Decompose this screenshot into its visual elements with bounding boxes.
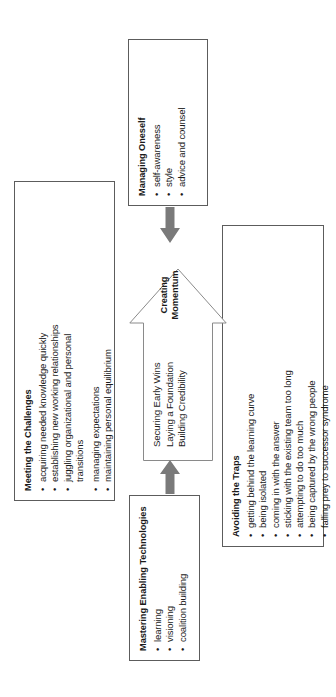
diagram-canvas: Meeting the Challenges •acquiring needed… <box>0 0 336 697</box>
bullet-marker: • <box>294 534 306 537</box>
list-item: •learning <box>152 505 164 651</box>
list-item-text: being captured by the wrong people <box>306 381 317 528</box>
list-item: •advice and counsel <box>176 49 188 196</box>
bullet-marker: • <box>245 534 257 537</box>
central-arrow-item: Building Credibility <box>176 329 189 447</box>
connector-arrow-oneself-to-center <box>160 207 180 243</box>
central-arrow-head-label: Creating Momentum <box>159 269 182 321</box>
central-arrow-item-list: Securing Early Wins Laying a Foundation … <box>151 329 189 447</box>
list-item-text: falling prey to successor syndrome <box>319 385 330 528</box>
arrow-left-icon <box>160 207 180 243</box>
bullet-marker: • <box>164 648 176 651</box>
list-item: •attempting to do too much <box>294 235 306 537</box>
list-item: •self-awareness <box>151 49 163 196</box>
list-item: •juggling organizational and personal <box>62 191 74 491</box>
panel-title-mastering-enabling-technologies: Mastering Enabling Technologies <box>137 505 149 651</box>
bullet-marker: • <box>90 488 102 491</box>
list-item-text: maintaining personal equilibrium <box>102 349 113 482</box>
list-item: •being captured by the wrong people <box>306 235 318 537</box>
central-arrow-head-label-line2: Momentum <box>170 269 181 321</box>
panel-meeting-the-challenges: Meeting the Challenges •acquiring needed… <box>14 181 115 501</box>
list-item-text: transitions <box>74 440 85 482</box>
bullet-marker: • <box>177 648 189 651</box>
list-item: •style <box>163 49 175 196</box>
panel-title-avoiding-the-traps: Avoiding the Traps <box>230 235 242 537</box>
list-item: •maintaining personal equilibrium <box>102 191 114 491</box>
panel-avoiding-the-traps: Avoiding the Traps •getting behind the l… <box>222 225 324 547</box>
list-item: •acquiring needed knowledge quickly <box>37 191 49 491</box>
panel-title-meeting-the-challenges: Meeting the Challenges <box>22 191 34 491</box>
list-item-text: acquiring needed knowledge quickly <box>37 333 48 482</box>
list-item: •managing expectations <box>90 191 102 491</box>
list-item-text: coming in with the answer <box>270 421 281 528</box>
list-item-text: establishing new working relationships <box>49 325 60 482</box>
list-item: •coalition building <box>177 505 189 651</box>
bullet-marker: • <box>319 534 331 537</box>
bullet-marker: • <box>163 193 175 196</box>
bullet-marker: • <box>270 534 282 537</box>
bullet-list-meeting-the-challenges: •acquiring needed knowledge quickly •est… <box>37 191 115 491</box>
list-item-text: managing expectations <box>90 386 101 482</box>
list-item-text: coalition building <box>177 574 188 642</box>
list-item-text: sticking with the existing team too long <box>282 370 293 528</box>
bullet-marker: • <box>151 193 163 196</box>
bullet-list-avoiding-the-traps: •getting behind the learning curve •bein… <box>245 235 331 537</box>
list-item: •establishing new working relationships <box>49 191 61 491</box>
list-item-text: style <box>163 168 174 187</box>
diagram-rotation-stage: Meeting the Challenges •acquiring needed… <box>0 0 336 697</box>
list-item: •sticking with the existing team too lon… <box>282 235 294 537</box>
panel-managing-oneself: Managing Oneself •self-awareness •style … <box>128 39 208 206</box>
central-arrow-item: Securing Early Wins <box>151 329 164 447</box>
arrow-right-icon <box>160 460 180 494</box>
list-item-text: self-awareness <box>151 125 162 187</box>
central-arrow-head-label-line1: Creating <box>159 269 170 321</box>
list-item-continuation: transitions <box>74 191 86 491</box>
bullet-marker: • <box>49 488 61 491</box>
bullet-marker: • <box>62 488 74 491</box>
list-item-text: visioning <box>164 606 175 642</box>
bullet-marker: • <box>257 534 269 537</box>
bullet-marker: • <box>102 488 114 491</box>
list-item: •getting behind the learning curve <box>245 235 257 537</box>
panel-title-managing-oneself: Managing Oneself <box>136 49 148 196</box>
list-item-text: advice and counsel <box>176 108 187 187</box>
list-item-text: juggling organizational and personal <box>62 334 73 482</box>
list-item: •being isolated <box>257 235 269 537</box>
bullet-marker: • <box>306 534 318 537</box>
list-item: •falling prey to successor syndrome <box>319 235 331 537</box>
connector-arrow-technologies-to-center <box>160 460 180 494</box>
bullet-marker: • <box>282 534 294 537</box>
list-item: •visioning <box>164 505 176 651</box>
central-arrow-item: Laying a Foundation <box>164 329 177 447</box>
list-item: •coming in with the answer <box>270 235 282 537</box>
panel-mastering-enabling-technologies: Mastering Enabling Technologies •learnin… <box>129 495 200 661</box>
list-item-text: attempting to do too much <box>294 421 305 528</box>
list-item-text: learning <box>152 609 163 642</box>
bullet-marker: • <box>37 488 49 491</box>
list-item-text: being isolated <box>257 471 268 528</box>
bullet-marker: • <box>152 648 164 651</box>
bullet-list-managing-oneself: •self-awareness •style •advice and couns… <box>151 49 188 196</box>
list-item-text: getting behind the learning curve <box>245 394 256 528</box>
central-momentum-arrow: Securing Early Wins Laying a Foundation … <box>129 268 227 461</box>
bullet-list-mastering-enabling-technologies: •learning •visioning •coalition building <box>152 505 189 651</box>
bullet-marker: • <box>176 193 188 196</box>
